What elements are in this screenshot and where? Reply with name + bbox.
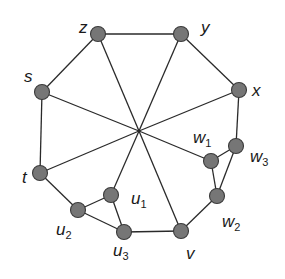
node-label-x: x (251, 81, 261, 100)
node-s (35, 85, 50, 100)
node-label-s: s (24, 67, 33, 86)
node-label-v: v (186, 244, 196, 263)
node-label-z: z (78, 18, 88, 37)
node-label-u2: u2 (56, 220, 72, 241)
node-label-t: t (22, 168, 28, 187)
node-y (174, 27, 189, 42)
node-v (174, 224, 189, 239)
node-label-w1: w1 (193, 128, 211, 149)
node-label-w2: w2 (222, 212, 240, 233)
node-label-y: y (200, 18, 211, 37)
node-label-w3: w3 (250, 147, 268, 168)
node-label-u1: u1 (131, 189, 147, 210)
node-t (33, 166, 48, 181)
edge-v-u3 (124, 231, 181, 232)
node-u3 (117, 225, 132, 240)
edge-s-z (42, 34, 98, 92)
spoke-center-t (40, 131, 139, 173)
node-w2 (210, 189, 225, 204)
node-label-u3: u3 (113, 241, 129, 262)
node-z (91, 27, 106, 42)
edge-y-x (181, 34, 239, 90)
edge-t-s (40, 92, 42, 173)
edge-x-w3 (236, 90, 239, 146)
node-u2 (71, 203, 86, 218)
node-x (232, 83, 247, 98)
node-w1 (204, 154, 219, 169)
node-u1 (104, 188, 119, 203)
graph-diagram: zyxstw1w3w2vu1u2u3 (0, 0, 285, 279)
node-w3 (229, 139, 244, 154)
